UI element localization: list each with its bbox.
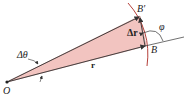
label-delta-theta: Δθ xyxy=(17,50,28,60)
label-point-b-prime: B′ xyxy=(137,4,145,14)
label-origin: O xyxy=(3,86,10,96)
label-position-vector: r xyxy=(91,61,95,70)
origin-point xyxy=(5,80,8,83)
delta-theta-pointer-top xyxy=(28,59,38,64)
label-point-b: B xyxy=(151,45,157,55)
delta-theta-pointer-bottom xyxy=(40,76,42,82)
label-phi: φ xyxy=(159,22,165,32)
diagram-canvas: O B B′ Δr r Δθ φ xyxy=(0,0,185,100)
label-delta-r: Δr xyxy=(127,28,138,38)
